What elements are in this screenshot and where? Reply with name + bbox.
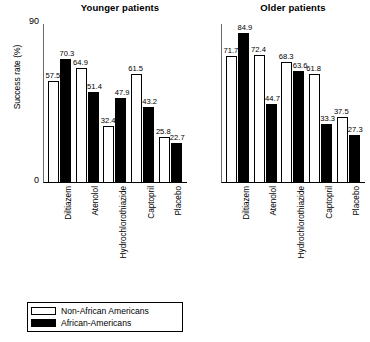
bar-african: 43.2 [143,107,154,183]
bar-non-african: 72.4 [254,55,265,183]
bar-group: 57.5 70.3 [46,24,74,183]
bar-group: 72.4 44.7 [252,24,280,183]
panel-title-older: Older patients [233,2,353,13]
legend-swatch-white-icon [31,307,56,315]
bar-african: 27.3 [349,135,360,183]
legend-item-non-african: Non-African Americans [31,305,179,317]
chart-legend: Non-African Americans African-Americans [27,302,183,332]
bar-african: 33.3 [321,124,332,183]
legend-item-african: African-Americans [31,317,179,329]
bar-value-label: 72.4 [251,45,266,54]
bar-value-label: 47.9 [115,88,130,97]
bar-groups-younger: 57.5 70.3 64.9 51.4 32.4 47.9 [43,24,187,183]
bar-value-label: 32.4 [101,116,116,125]
bar-group: 61.5 43.2 [129,24,157,183]
chart-figure: Younger patients Older patients Success … [0,0,370,342]
bar-group: 71.7 84.9 [224,24,252,183]
x-tick-label: Hydrochlorothiazide [297,186,306,258]
bar-non-african: 57.5 [48,81,59,183]
bar-african: 44.7 [266,104,277,183]
bar-non-african: 64.9 [76,68,87,183]
bar-value-label: 57.5 [46,71,61,80]
bar-african: 70.3 [60,59,71,183]
bar-non-african: 61.8 [309,74,320,183]
plot-panel-younger: 57.5 70.3 64.9 51.4 32.4 47.9 [43,24,187,183]
legend-label: Non-African Americans [61,306,149,316]
y-axis-tick-90: 90 [17,16,39,26]
bar-value-label: 44.7 [265,94,280,103]
legend-swatch-black-icon [31,319,56,327]
bar-non-african: 25.8 [159,137,170,183]
bar-african: 84.9 [238,33,249,183]
bar-african: 51.4 [88,92,99,183]
x-tick-label: Placebo [352,186,361,216]
bar-value-label: 43.2 [142,97,157,106]
x-axis-labels-younger: Diltiazem Atenolol Hydrochlorothiazide C… [43,186,187,281]
bar-value-label: 51.4 [87,82,102,91]
bar-value-label: 33.3 [320,114,335,123]
x-tick-label: Captopril [325,186,334,219]
bar-non-african: 71.7 [226,56,237,183]
bar-non-african: 68.3 [281,62,292,183]
bar-value-label: 27.3 [348,125,363,134]
x-tick-label: Diltiazem [242,186,251,220]
bar-african: 22.7 [171,143,182,183]
bar-group: 68.3 63.6 [279,24,307,183]
bar-non-african: 61.5 [131,74,142,183]
x-tick-label: Placebo [174,186,183,216]
bar-value-label: 63.6 [293,61,308,70]
bar-value-label: 71.7 [224,46,239,55]
bar-value-label: 22.7 [170,133,185,142]
bar-group: 61.8 33.3 [307,24,335,183]
bar-african: 63.6 [293,71,304,183]
x-axis-labels-older: Diltiazem Atenolol Hydrochlorothiazide C… [221,186,365,281]
bar-value-label: 70.3 [59,49,74,58]
bar-value-label: 37.5 [334,107,349,116]
bar-value-label: 61.8 [306,64,321,73]
x-tick-label: Captopril [147,186,156,219]
bar-group: 37.5 27.3 [334,24,362,183]
legend-label: African-Americans [61,318,131,328]
y-axis-tick-0: 0 [17,175,39,185]
bar-groups-older: 71.7 84.9 72.4 44.7 68.3 63.6 [221,24,365,183]
bar-value-label: 64.9 [73,58,88,67]
bar-group: 64.9 51.4 [74,24,102,183]
x-tick-label: Diltiazem [64,186,73,220]
plot-panel-older: 71.7 84.9 72.4 44.7 68.3 63.6 [221,24,365,183]
bar-value-label: 84.9 [237,23,252,32]
bar-african: 47.9 [115,98,126,183]
bar-group: 32.4 47.9 [101,24,129,183]
bar-value-label: 68.3 [279,52,294,61]
bar-group: 25.8 22.7 [156,24,184,183]
x-tick-label: Atenolol [91,186,100,216]
x-tick-label: Atenolol [269,186,278,216]
y-axis-label: Success rate (%) [12,22,22,132]
bar-value-label: 61.5 [128,64,143,73]
panel-title-younger: Younger patients [55,2,185,13]
bar-value-label: 25.8 [156,127,171,136]
bar-non-african: 32.4 [103,126,114,183]
bar-non-african: 37.5 [337,117,348,183]
x-tick-label: Hydrochlorothiazide [119,186,128,258]
